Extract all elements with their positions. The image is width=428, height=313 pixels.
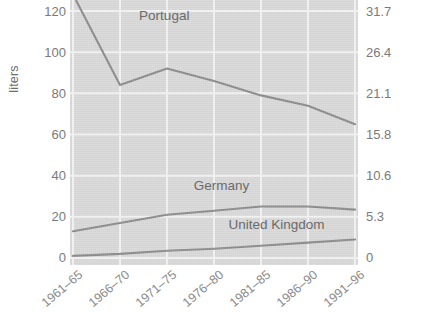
y-tick-left-60: 60 bbox=[52, 128, 66, 141]
x-tick-label: 1976–80 bbox=[180, 268, 226, 310]
plot-area: Portugal Germany United Kingdom bbox=[70, 0, 358, 265]
y-tick-right-10-6: 10.6 bbox=[366, 169, 391, 182]
y-tick-left-20: 20 bbox=[52, 210, 66, 223]
y-tick-left-100: 100 bbox=[44, 46, 66, 59]
x-tick-label: 1966–70 bbox=[86, 268, 132, 310]
y-tick-right-5-3: 5.3 bbox=[366, 210, 384, 223]
series-label-germany: Germany bbox=[194, 178, 250, 193]
y-tick-right-0: 0 bbox=[366, 251, 373, 264]
y-tick-right-26-4: 26.4 bbox=[366, 46, 391, 59]
x-tick-label: 1986–90 bbox=[274, 268, 320, 310]
y-tick-left-120: 120 bbox=[44, 5, 66, 18]
y-axis-title-left: liters bbox=[7, 49, 21, 109]
line-chart: liters 120 100 80 60 40 20 0 31.7 26.4 2… bbox=[0, 0, 428, 313]
x-tick-label: 1961–65 bbox=[39, 268, 85, 310]
x-tick-label: 1971–75 bbox=[133, 268, 179, 310]
series-label-united-kingdom: United Kingdom bbox=[228, 217, 324, 232]
y-tick-left-80: 80 bbox=[52, 87, 66, 100]
y-tick-right-21-1: 21.1 bbox=[366, 87, 391, 100]
x-tick-label: 1981–85 bbox=[227, 268, 273, 310]
x-axis-tick-labels: 1961–651966–701971–751976–801981–851986–… bbox=[0, 265, 428, 313]
series-label-portugal: Portugal bbox=[139, 8, 189, 23]
y-tick-right-31-7: 31.7 bbox=[366, 5, 391, 18]
y-tick-left-0: 0 bbox=[59, 251, 66, 264]
x-tick-label: 1991–96 bbox=[321, 268, 367, 310]
y-tick-right-15-8: 15.8 bbox=[366, 128, 391, 141]
y-tick-left-40: 40 bbox=[52, 169, 66, 182]
